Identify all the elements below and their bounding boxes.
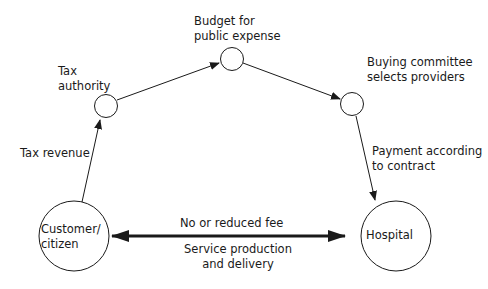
tax-to-budget-arrow [117,63,219,100]
buying-committee-node [341,93,364,116]
fee-label: No or reduced fee [180,216,283,231]
service-label: Service production and delivery [178,242,298,272]
tax-revenue-arrow [82,120,100,202]
tax-authority-node [95,95,118,118]
budget-node [221,48,244,71]
buying-committee-label: Buying committee selects providers [367,55,473,85]
customer-label: Customer/ citizen [41,222,101,252]
tax-revenue-label: Tax revenue [20,146,90,161]
hospital-label: Hospital [366,228,413,243]
budget-to-committee-arrow [243,63,340,99]
payment-label: Payment according to contract [372,144,482,174]
tax-authority-label: Tax authority [58,64,110,94]
budget-label: Budget for public expense [194,14,281,44]
